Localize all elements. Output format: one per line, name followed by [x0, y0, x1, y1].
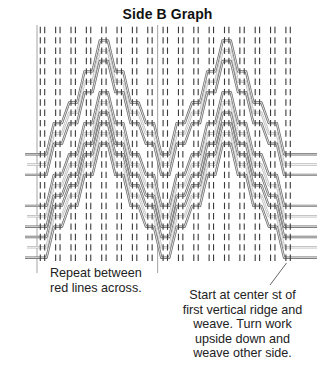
start-note-line: upside down and [170, 332, 315, 347]
start-note: Start at center st of first vertical rid… [170, 288, 315, 361]
weaving-strands [25, 40, 317, 257]
start-note-line: first vertical ridge and [170, 303, 315, 318]
start-note-line: weave. Turn work [170, 317, 315, 332]
start-note-line: weave other side. [170, 346, 315, 361]
graph-title: Side B Graph [0, 6, 335, 22]
annotation-leader-line [270, 263, 287, 285]
repeat-note-line: Repeat between [50, 266, 142, 281]
black-strand [25, 40, 317, 154]
repeat-note-line: red lines across. [50, 281, 142, 296]
repeat-note: Repeat between red lines across. [50, 266, 142, 296]
black-strand-core [25, 40, 317, 154]
start-note-line: Start at center st of [170, 288, 315, 303]
